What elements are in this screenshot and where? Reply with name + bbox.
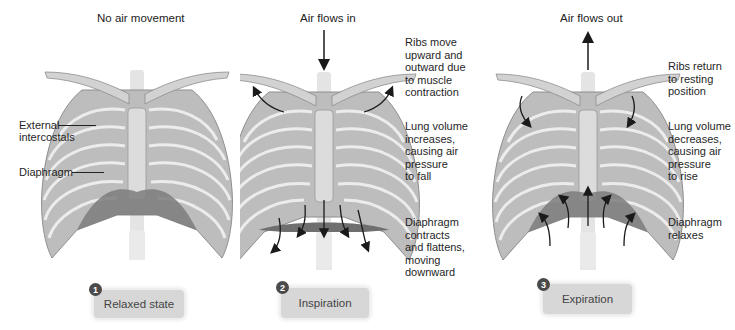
label-diaphragm: Diaphragm bbox=[19, 166, 73, 179]
leader-line-diaphragm bbox=[72, 172, 104, 173]
label-diaphragm-relaxes: Diaphragm relaxes bbox=[668, 216, 722, 241]
leader-line-intercostals bbox=[58, 125, 96, 126]
step-number-badge: 2 bbox=[276, 281, 289, 294]
step-box-relaxed: Relaxed state bbox=[94, 290, 184, 318]
step-box-inspiration: Inspiration bbox=[281, 288, 369, 318]
label-intercostals: intercostals bbox=[19, 131, 75, 144]
label-diaphragm-contracts: Diaphragm contracts and flattens, moving… bbox=[405, 216, 465, 279]
step-label: Inspiration bbox=[298, 297, 351, 309]
label-external: External bbox=[19, 119, 59, 132]
step-label: Expiration bbox=[562, 293, 613, 305]
label-lung-volume-decreases: Lung volume decreases, causing air press… bbox=[668, 120, 731, 183]
label-lung-volume-increases: Lung volume increases, causing air press… bbox=[405, 120, 468, 183]
label-ribs-move-up-out: Ribs move upward and outward due to musc… bbox=[405, 36, 466, 99]
step-box-expiration: Expiration bbox=[543, 284, 632, 314]
step-number-badge: 1 bbox=[89, 283, 102, 296]
step-label: Relaxed state bbox=[104, 298, 174, 310]
label-ribs-return: Ribs return to resting position bbox=[668, 60, 722, 98]
step-number-badge: 3 bbox=[537, 278, 550, 291]
